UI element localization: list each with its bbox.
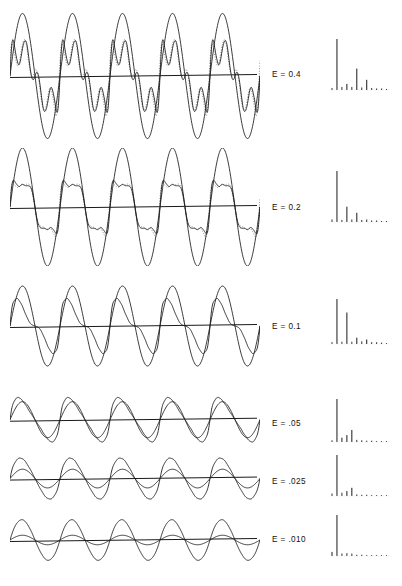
waveform-plot-0: [10, 8, 260, 144]
spectrum-plot-0: [330, 36, 392, 92]
panel-label-3: E = .05: [272, 419, 301, 428]
figure-root: E = 0.4E = 0.2E = 0.1E = .05E = .025E = …: [0, 0, 402, 586]
spectrum-plot-1: [330, 168, 392, 224]
panel-label-4: E = .025: [272, 477, 306, 486]
waveform-plot-5: [10, 506, 260, 574]
panel-label-5: E = .010: [272, 535, 306, 544]
spectrum-plot-4: [330, 452, 392, 498]
spectrum-plot-3: [330, 396, 392, 444]
spectrum-plot-5: [330, 512, 392, 558]
panel-label-2: E = 0.1: [272, 322, 301, 331]
waveform-plot-1: [10, 148, 260, 266]
panel-label-0: E = 0.4: [272, 70, 301, 79]
spectrum-plot-2: [330, 296, 392, 346]
waveform-plot-2: [10, 278, 260, 378]
panel-label-1: E = 0.2: [272, 203, 301, 212]
